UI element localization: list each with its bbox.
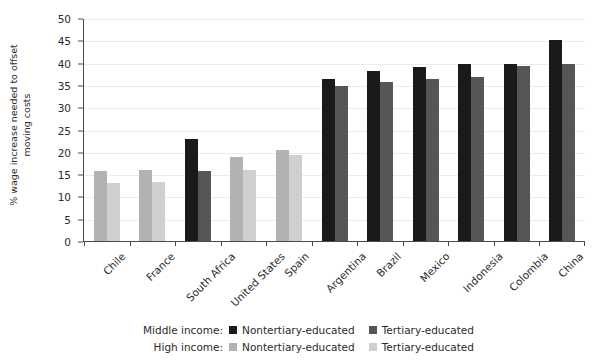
y-tick-label: 20 <box>58 148 71 158</box>
bar-tertiary <box>107 183 120 241</box>
bar-group <box>357 19 403 241</box>
bar-tertiary <box>426 79 439 241</box>
bar-nontertiary <box>504 64 517 242</box>
x-label-cell: Brazil <box>357 246 403 316</box>
legend-swatch-icon <box>229 326 237 334</box>
x-label-cell: United States <box>220 246 266 316</box>
bar-group <box>130 19 176 241</box>
x-label-cell: Colombia <box>494 246 540 316</box>
plot-area <box>83 19 585 242</box>
bar-tertiary <box>471 77 484 241</box>
bar-group <box>494 19 540 241</box>
bar-tertiary <box>335 86 348 241</box>
bar-tertiary <box>380 82 393 241</box>
legend-item-label: Nontertiary-educated <box>242 324 355 336</box>
bar-group <box>312 19 358 241</box>
x-label-cell: China <box>539 246 585 316</box>
y-tick-label: 50 <box>58 14 71 24</box>
y-axis-ticks: 05101520253035404550 <box>0 0 83 262</box>
legend-row-title: Middle income: <box>118 324 229 336</box>
bar-group <box>539 19 585 241</box>
bar-group <box>175 19 221 241</box>
bar-nontertiary <box>413 67 426 241</box>
legend-row: Middle income:Nontertiary-educatedTertia… <box>0 321 592 338</box>
bar-group <box>266 19 312 241</box>
bar-nontertiary <box>94 171 107 241</box>
bar-group <box>448 19 494 241</box>
legend-swatch-icon <box>369 343 377 351</box>
x-tick-label: Chile <box>100 250 127 277</box>
x-label-cell: Mexico <box>402 246 448 316</box>
bar-groups <box>84 19 585 241</box>
bar-nontertiary <box>139 170 152 241</box>
x-axis-labels: ChileFranceSouth AfricaUnited StatesSpai… <box>83 246 585 316</box>
y-tick-label: 30 <box>58 103 71 113</box>
x-label-cell: France <box>129 246 175 316</box>
bar-group <box>84 19 130 241</box>
legend-row: High income:Nontertiary-educatedTertiary… <box>0 338 592 355</box>
bar-chart-figure: % wage increase needed to offset moving … <box>0 0 592 361</box>
bar-nontertiary <box>458 64 471 241</box>
bar-nontertiary <box>230 157 243 241</box>
legend-row-title: High income: <box>118 341 229 353</box>
y-tick-label: 45 <box>58 36 71 46</box>
bar-nontertiary <box>276 150 289 241</box>
bar-group <box>221 19 267 241</box>
legend-item[interactable]: Nontertiary-educated <box>229 324 355 336</box>
x-label-cell: Indonesia <box>448 246 494 316</box>
legend-item[interactable]: Tertiary-educated <box>369 324 474 336</box>
y-tick-label: 10 <box>58 192 71 202</box>
y-tick-label: 5 <box>64 215 71 225</box>
y-tick-label: 25 <box>58 126 71 136</box>
y-tick-label: 40 <box>58 59 71 69</box>
legend-item-label: Tertiary-educated <box>382 341 474 353</box>
legend-item[interactable]: Tertiary-educated <box>369 341 474 353</box>
bar-tertiary <box>198 171 211 241</box>
bar-group <box>403 19 449 241</box>
legend-item-label: Tertiary-educated <box>382 324 474 336</box>
legend-item-label: Nontertiary-educated <box>242 341 355 353</box>
bar-tertiary <box>152 182 165 241</box>
y-tick-label: 0 <box>64 237 71 247</box>
x-tick-label: Brazil <box>374 250 403 279</box>
bar-tertiary <box>289 155 302 241</box>
legend-swatch-icon <box>369 326 377 334</box>
y-tick-label: 35 <box>58 81 71 91</box>
x-tick-label: Spain <box>282 250 311 279</box>
chart-legend: Middle income:Nontertiary-educatedTertia… <box>0 321 592 355</box>
x-label-cell: South Africa <box>174 246 220 316</box>
bar-nontertiary <box>322 79 335 241</box>
x-label-cell: Chile <box>83 246 129 316</box>
x-label-cell: Spain <box>266 246 312 316</box>
bar-tertiary <box>562 64 575 242</box>
bar-nontertiary <box>549 40 562 241</box>
x-tick-label: China <box>556 250 586 280</box>
x-label-cell: Argentina <box>311 246 357 316</box>
y-tick-label: 15 <box>58 170 71 180</box>
x-tick-label: Mexico <box>418 250 452 284</box>
x-tick-label: France <box>144 250 177 283</box>
legend-swatch-icon <box>229 343 237 351</box>
legend-item[interactable]: Nontertiary-educated <box>229 341 355 353</box>
bar-nontertiary <box>367 71 380 241</box>
bar-tertiary <box>243 170 256 241</box>
bar-tertiary <box>517 66 530 241</box>
bar-nontertiary <box>185 139 198 241</box>
